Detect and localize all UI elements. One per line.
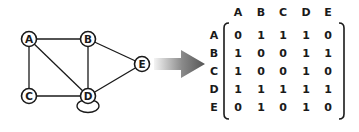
matrix-cell: 0	[320, 101, 336, 114]
node-b: B	[81, 32, 96, 47]
matrix-row-header: D	[206, 83, 222, 96]
matrix-cell: 1	[275, 29, 291, 42]
matrix-cell: 0	[253, 65, 269, 78]
matrix-cell: 1	[298, 29, 314, 42]
matrix-row-header: A	[206, 29, 222, 42]
matrix-cell: 1	[298, 83, 314, 96]
node-label: B	[84, 33, 92, 45]
matrix-cell: 0	[253, 47, 269, 60]
matrix-row-header: B	[206, 47, 222, 60]
node-e: E	[135, 57, 150, 72]
matrix-column-header: D	[298, 6, 314, 19]
edge-d-e	[88, 64, 142, 96]
left-bracket	[224, 23, 229, 119]
transform-arrow-icon	[154, 50, 205, 78]
edge-b-e	[88, 39, 142, 64]
matrix-cell: 1	[230, 65, 246, 78]
matrix-cell: 0	[230, 29, 246, 42]
node-d: D	[81, 89, 96, 104]
matrix-cell: 1	[298, 65, 314, 78]
matrix-cell: 1	[298, 101, 314, 114]
matrix-cell: 1	[275, 83, 291, 96]
right-bracket	[339, 23, 344, 119]
node-label: A	[25, 33, 34, 45]
matrix-cell: 1	[253, 29, 269, 42]
matrix-row-header: C	[206, 65, 222, 78]
matrix-cell: 0	[320, 29, 336, 42]
matrix-cell: 1	[253, 83, 269, 96]
matrix-cell: 0	[320, 65, 336, 78]
node-c: C	[22, 89, 37, 104]
matrix-column-header: A	[230, 6, 246, 19]
matrix-cell: 1	[230, 83, 246, 96]
matrix-cell: 0	[275, 65, 291, 78]
node-label: D	[84, 90, 93, 102]
matrix-column-header: E	[320, 6, 336, 19]
graph-edges	[29, 39, 142, 96]
node-a: A	[22, 32, 37, 47]
matrix-cell: 1	[253, 101, 269, 114]
matrix-column-header: B	[253, 6, 269, 19]
graph-nodes: ABCDE	[22, 32, 150, 104]
matrix-row-header: E	[206, 101, 222, 114]
node-label: E	[138, 58, 145, 70]
matrix-cell: 0	[275, 47, 291, 60]
matrix-cell: 1	[298, 47, 314, 60]
matrix-column-header: C	[275, 6, 291, 19]
matrix-cell: 0	[275, 101, 291, 114]
matrix-cell: 1	[320, 83, 336, 96]
matrix-cell: 1	[320, 47, 336, 60]
matrix-cell: 0	[230, 101, 246, 114]
matrix-cell: 1	[230, 47, 246, 60]
node-label: C	[25, 90, 33, 102]
edge-a-d	[29, 39, 88, 96]
